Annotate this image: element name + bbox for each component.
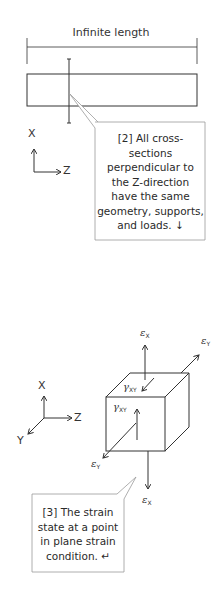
callout-1-line: and loads. ↓ (95, 218, 206, 233)
callout-1-line: perpendicular to (95, 160, 206, 175)
callout-1-line: geometry, supports, (95, 204, 206, 219)
subscript: X (147, 499, 151, 506)
dimension-line (27, 38, 197, 64)
xz-axes (34, 149, 61, 172)
diagram-canvas (0, 0, 219, 592)
axis-y-label-2: Y (17, 434, 24, 447)
callout-2-line: in plane strain (32, 534, 124, 549)
subscript: Y (206, 340, 210, 347)
epsilon-y-top-label: εY (201, 335, 210, 347)
strain-arrows (103, 345, 199, 489)
infinite-length-label: Infinite length (0, 26, 219, 39)
subscript: Y (96, 463, 100, 470)
axis-z-label-2: Z (74, 411, 82, 424)
axis-x-label-2: X (38, 379, 46, 392)
cross-section-line (67, 59, 71, 123)
subscript: XY (119, 406, 127, 413)
callout-text-1: [2] All cross- sections perpendicular to… (95, 131, 206, 233)
xyz-axes (28, 396, 72, 434)
axis-x-label-1: X (28, 127, 36, 140)
callout-1-line: [2] All cross- (95, 131, 206, 146)
callout-2-line: state at a point (32, 520, 124, 535)
gamma-xy-back-label: γXY (123, 381, 137, 393)
callout-2-line: [3] The strain (32, 505, 124, 520)
infinite-body (27, 74, 197, 106)
axis-z-label-1: Z (63, 164, 71, 177)
subscript: XY (129, 386, 137, 393)
epsilon-x-bottom-label: εX (142, 494, 152, 506)
callout-1-line: the Z-direction (95, 175, 206, 190)
epsilon-y-bottom-label: εY (91, 458, 100, 470)
callout-1-line: have the same (95, 189, 206, 204)
callout-2-line: condition. ↵ (32, 549, 124, 564)
epsilon-x-top-label: εX (140, 327, 150, 339)
subscript: X (145, 332, 149, 339)
callout-text-2: [3] The strain state at a point in plane… (32, 505, 124, 563)
callout-1-line: sections (95, 146, 206, 161)
gamma-xy-front-label: γXY (113, 401, 127, 413)
